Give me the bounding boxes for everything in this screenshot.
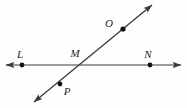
geometry-canvas: L M N O P bbox=[0, 0, 187, 108]
label-O: O bbox=[105, 17, 113, 29]
label-P: P bbox=[63, 85, 71, 97]
label-N: N bbox=[143, 48, 152, 60]
geometry-figure: L M N O P bbox=[0, 0, 187, 108]
label-M: M bbox=[69, 47, 80, 59]
point-L bbox=[20, 63, 25, 68]
point-N bbox=[148, 63, 153, 68]
point-O bbox=[120, 26, 125, 31]
diagonal-line-PO bbox=[34, 5, 152, 102]
label-L: L bbox=[16, 48, 23, 60]
point-P bbox=[58, 82, 63, 87]
